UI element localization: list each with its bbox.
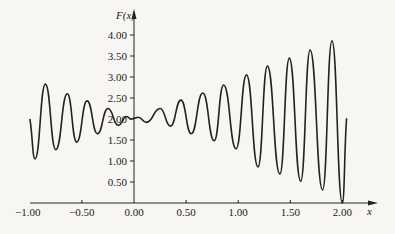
x-tick-label: 1.50 bbox=[281, 206, 301, 218]
f-of-x-curve bbox=[30, 41, 347, 203]
x-tick-label: 2.00 bbox=[333, 206, 353, 218]
x-tick-label: −0.50 bbox=[69, 206, 95, 218]
y-tick-label: 3.50 bbox=[108, 50, 128, 62]
y-tick-label: 2.50 bbox=[108, 92, 128, 104]
y-tick-label: 0.50 bbox=[108, 176, 128, 188]
x-tick-label: −1.00 bbox=[15, 206, 41, 218]
y-tick-label: 3.00 bbox=[108, 71, 128, 83]
x-axis-label: x bbox=[366, 205, 372, 217]
chart-canvas: −1.00−0.500.000.501.001.502.00 0.501.001… bbox=[0, 0, 395, 234]
x-tick-label: 1.00 bbox=[229, 206, 249, 218]
y-tick-label: 2.00 bbox=[108, 113, 128, 125]
y-tick-label: 4.00 bbox=[108, 29, 128, 41]
y-tick-label: 1.50 bbox=[108, 134, 128, 146]
y-ticks: 0.501.001.502.002.503.003.504.00 bbox=[108, 29, 134, 188]
y-axis-label: F(x) bbox=[115, 9, 135, 22]
x-tick-label: 0.50 bbox=[176, 206, 196, 218]
x-tick-label: 0.00 bbox=[124, 206, 144, 218]
y-tick-label: 1.00 bbox=[108, 155, 128, 167]
